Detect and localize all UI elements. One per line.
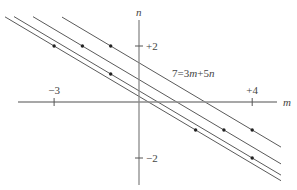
line-c-4 <box>33 17 281 164</box>
eq-var-n: n <box>209 67 215 79</box>
eq-var-m: m <box>189 67 197 79</box>
lattice-point <box>251 128 254 131</box>
n-tick-label: −2 <box>146 152 158 164</box>
line-c-7 <box>62 17 281 147</box>
lattice-point <box>194 128 197 131</box>
eq-prefix: 7=3 <box>172 67 190 79</box>
m-axis-label: m <box>283 96 291 108</box>
lattice-diagram: −3+4+2−2 m n 7=3m+5n <box>0 0 297 190</box>
lattice-point <box>52 44 55 47</box>
lattice-point <box>222 128 225 131</box>
n-tick-label: +2 <box>146 40 158 52</box>
lattice-point <box>109 44 112 47</box>
lines-group <box>5 17 281 181</box>
line-equation-label: 7=3m+5n <box>172 67 215 79</box>
m-tick-label: −3 <box>48 84 60 96</box>
lattice-point <box>81 44 84 47</box>
lattice-point <box>251 156 254 159</box>
n-axis-label: n <box>136 6 142 18</box>
lattice-point <box>109 72 112 75</box>
eq-mid: +5 <box>197 67 209 79</box>
m-tick-label: +4 <box>246 84 258 96</box>
line-c-1 <box>5 17 281 181</box>
